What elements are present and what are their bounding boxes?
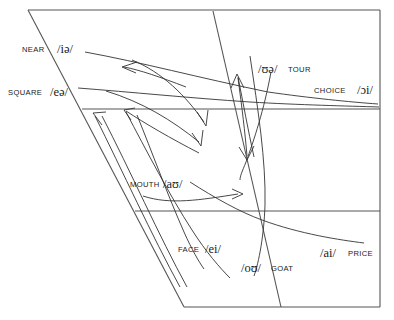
- arrow-mouth-right: [143, 194, 238, 201]
- label-price-ipa: /ai/: [320, 246, 336, 260]
- label-goat-ipa: /oʊ/: [241, 261, 262, 275]
- height-dividers: [82, 109, 380, 211]
- curve-tour: [240, 72, 271, 180]
- arrow-near-to-front: [124, 67, 186, 87]
- label-mouth-ipa: /aʊ/: [163, 177, 183, 191]
- arrow-to-open-front-a: [95, 116, 180, 287]
- label-square-word: SQUARE: [8, 88, 42, 97]
- label-goat-word: GOAT: [271, 264, 293, 273]
- label-square-ipa: /eə/: [50, 85, 69, 99]
- curve-price: [190, 182, 364, 243]
- arrow-to-open-front-head: [93, 112, 106, 125]
- label-tour-word: TOUR: [288, 65, 311, 74]
- curve-near: [85, 52, 378, 104]
- arrow-glide-down-right-upper-head: [197, 110, 208, 126]
- label-face-word: FACE: [178, 245, 199, 254]
- label-near-ipa: /iə/: [57, 42, 73, 56]
- arrow-near-head: [122, 62, 137, 73]
- frame-left-edge: [28, 10, 184, 307]
- vowel-quadrilateral-diagram: NEAR /iə/ SQUARE /eə/ /ʊə/ TOUR CHOICE /…: [0, 0, 394, 320]
- label-face-ipa: /ei/: [205, 242, 221, 256]
- label-price-word: PRICE: [348, 249, 373, 258]
- label-tour-ipa: /ʊə/: [258, 62, 278, 76]
- label-near-word: NEAR: [22, 45, 45, 54]
- label-choice-ipa: /ɔi/: [357, 83, 373, 97]
- quadrilateral-frame: [28, 10, 380, 307]
- label-choice-word: CHOICE: [314, 86, 346, 95]
- arrow-to-square-head: [124, 108, 135, 120]
- motion-arrows: [93, 60, 254, 287]
- label-mouth-word: MOUTH: [130, 180, 160, 189]
